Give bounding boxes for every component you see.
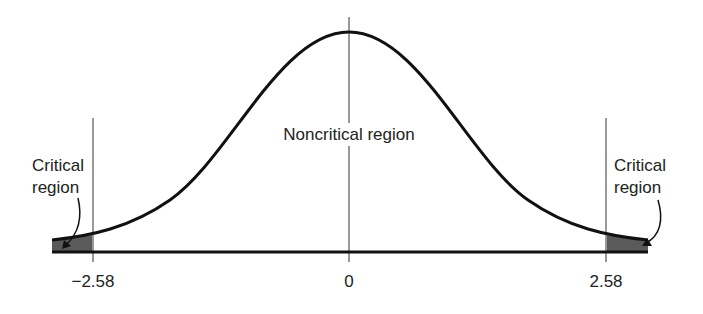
tick-label-left: −2.58 (71, 272, 114, 291)
right-region-label-line1: Critical (614, 156, 666, 175)
left-region-label-line2: region (32, 178, 79, 197)
right-arrow (646, 200, 661, 243)
right-region-label-line2: region (614, 178, 661, 197)
center-region-label: Noncritical region (283, 125, 414, 144)
tick-label-center: 0 (344, 272, 353, 291)
normal-curve-diagram: Critical region Noncritical region Criti… (0, 0, 703, 314)
tick-label-right: 2.58 (589, 272, 622, 291)
left-region-label-line1: Critical (32, 156, 84, 175)
